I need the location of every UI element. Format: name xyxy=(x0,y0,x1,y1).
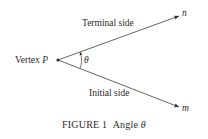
angle-theta-label: θ xyxy=(84,56,89,66)
vertex-point xyxy=(56,58,59,61)
angle-arc xyxy=(80,52,82,69)
vertex-name: P xyxy=(42,55,48,65)
caption-symbol: θ xyxy=(141,119,146,130)
caption-title: Angle xyxy=(113,119,141,130)
vertex-prefix: Vertex xyxy=(15,55,42,65)
initial-side-ray xyxy=(58,60,179,107)
figure-caption: FIGURE 1 Angle θ xyxy=(0,119,208,130)
point-n-label: n xyxy=(182,9,187,19)
caption-number: FIGURE 1 xyxy=(62,119,107,130)
vertex-label: Vertex P xyxy=(15,56,48,66)
point-m-label: m xyxy=(182,104,189,114)
terminal-side-label: Terminal side xyxy=(82,19,134,29)
initial-side-label: Initial side xyxy=(89,89,129,99)
